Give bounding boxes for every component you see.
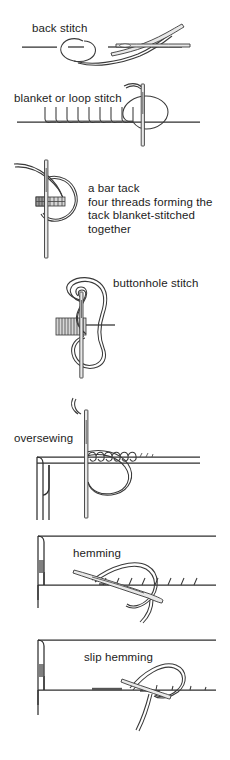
label-oversewing: oversewing: [14, 432, 73, 446]
tack-bar: [36, 197, 65, 206]
label-back-stitch: back stitch: [32, 22, 87, 36]
figure-oversewing: [37, 398, 200, 520]
label-slip-hemming: slip hemming: [84, 651, 153, 665]
figure-buttonhole-stitch: [56, 278, 115, 378]
needle: [121, 679, 171, 699]
thread-loop: [123, 96, 168, 129]
label-buttonhole-stitch: buttonhole stitch: [113, 277, 198, 291]
thread-tail-2: [139, 694, 152, 731]
needle: [73, 570, 163, 603]
label-blanket-or-loop-stitch: blanket or loop stitch: [14, 92, 122, 106]
needle: [45, 160, 48, 258]
label-bar-tack: a bar tack four threads forming the tack…: [88, 182, 213, 236]
thread-in-2: [15, 167, 63, 198]
needle: [141, 84, 144, 146]
needle-eye: [120, 44, 131, 47]
needle: [80, 292, 83, 378]
fabric-section: [37, 457, 200, 520]
thread-top-2: [126, 86, 141, 89]
label-hemming: hemming: [73, 547, 121, 561]
blanket-loops: [45, 107, 133, 122]
fabric-hem: [38, 536, 216, 608]
needle: [85, 410, 88, 518]
figure-bar-tack: [14, 160, 77, 258]
figure-hemming: [38, 536, 216, 623]
thread-in: [14, 164, 62, 196]
stitch-diagram-sheet: .ln { fill:none; stroke:#3a3a3a; stroke-…: [0, 0, 230, 760]
thread-loop: [61, 39, 96, 62]
